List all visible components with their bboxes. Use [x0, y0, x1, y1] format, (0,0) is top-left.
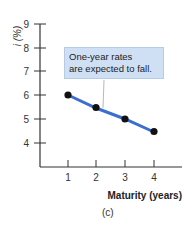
panel-label: (c) [102, 207, 114, 218]
annotation-box: One-year rates are expected to fall. [64, 47, 164, 79]
x-axis-label: Maturity (years) [108, 190, 182, 201]
yield-curve-line [68, 95, 154, 132]
x-ticks [68, 160, 154, 167]
y-tick-9: 9 [23, 19, 29, 30]
x-tick-4: 4 [151, 172, 157, 183]
point-3 [121, 115, 128, 122]
x-tick-1: 1 [65, 172, 71, 183]
annotation-line-1: One-year rates [69, 51, 159, 63]
x-tick-2: 2 [93, 172, 99, 183]
y-tick-4: 4 [23, 138, 29, 149]
point-2 [92, 104, 99, 111]
point-1 [64, 91, 71, 98]
chart-canvas: 9 8 7 6 5 4 i (%) 1 2 3 4 Maturity (year… [0, 0, 189, 227]
y-tick-7: 7 [23, 66, 29, 77]
x-tick-3: 3 [122, 172, 128, 183]
point-4 [150, 128, 157, 135]
y-tick-5: 5 [23, 114, 29, 125]
annotation-pointer [103, 80, 104, 108]
y-tick-8: 8 [23, 43, 29, 54]
y-axis-label: i (%) [12, 26, 23, 47]
annotation-line-2: are expected to fall. [69, 63, 159, 75]
y-tick-6: 6 [23, 90, 29, 101]
